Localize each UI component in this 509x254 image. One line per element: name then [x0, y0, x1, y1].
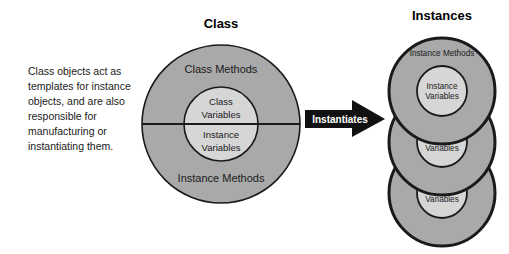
description-line-5: manufacturing or [28, 125, 107, 137]
diagram-canvas: Class objects act as templates for insta… [0, 0, 509, 254]
oop-class-instances-diagram: Class objects act as templates for insta… [0, 0, 509, 254]
instance-circle-1: Instance Methods Instance Variables [389, 38, 495, 144]
description-line-4: responsible for [28, 110, 97, 122]
description-line-3: objects, and are also [28, 95, 125, 107]
instance-1-inner-label-line1: Instance [427, 82, 458, 91]
instance-1-outer-label: Instance Methods [410, 49, 475, 58]
class-instance-variables-label-line2: Variables [202, 142, 241, 153]
instantiates-label: Instantiates [312, 114, 368, 125]
instance-1-inner-label-line2: Variables [425, 92, 459, 101]
instances-title: Instances [412, 8, 472, 23]
class-instance-variables-label-line1: Instance [203, 129, 239, 140]
description-line-6: instantiating them. [28, 140, 113, 152]
description-line-1: Class objects act as [28, 65, 121, 77]
class-instance-methods-label: Instance Methods [178, 172, 265, 184]
description-line-2: templates for instance [28, 80, 131, 92]
class-methods-label: Class Methods [185, 63, 258, 75]
class-variables-label-line2: Variables [202, 109, 241, 120]
instance-1-inner-circle [417, 66, 467, 116]
class-title: Class [204, 16, 239, 31]
class-variables-label-line1: Class [209, 96, 233, 107]
